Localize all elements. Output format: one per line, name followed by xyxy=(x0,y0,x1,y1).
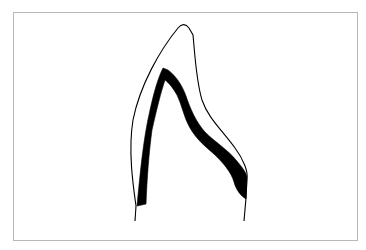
right-root-stem xyxy=(244,198,246,221)
tooth-inner-band xyxy=(137,68,247,206)
left-root-stem xyxy=(135,206,136,221)
tooth-diagram xyxy=(0,0,366,250)
